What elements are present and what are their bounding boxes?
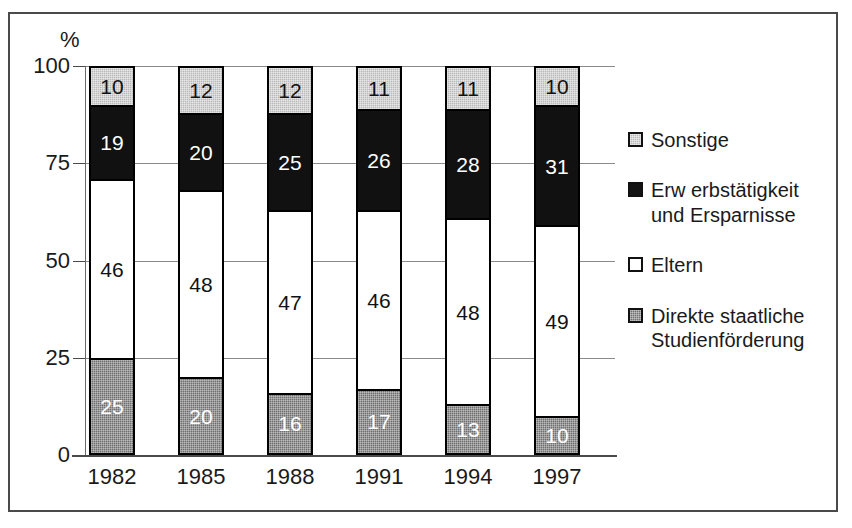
bar-segment[interactable]: 13 <box>445 404 491 455</box>
bar-segment[interactable]: 48 <box>445 218 491 405</box>
bar-segment[interactable]: 20 <box>178 113 224 191</box>
x-axis-tick-label: 1988 <box>240 466 340 488</box>
bar-segment[interactable]: 10 <box>534 416 580 455</box>
x-axis-line <box>72 455 617 457</box>
bar-segment[interactable]: 25 <box>89 358 135 455</box>
bar-segment[interactable]: 49 <box>534 225 580 416</box>
stacked-bar[interactable]: 12254716 <box>267 66 313 455</box>
bar-segment[interactable]: 11 <box>356 66 402 109</box>
bar-segment[interactable]: 25 <box>267 113 313 210</box>
bar-segment[interactable]: 10 <box>534 66 580 105</box>
legend-label: Eltern <box>651 253 703 277</box>
y-axis-tick-mark <box>73 163 85 164</box>
x-axis-tick-label: 1985 <box>151 466 251 488</box>
bar-segment[interactable]: 31 <box>534 105 580 226</box>
bar-segment[interactable]: 26 <box>356 109 402 210</box>
dark-gray-swatch <box>628 308 643 323</box>
legend-label: Direkte staatliche Studienförderung <box>651 304 804 353</box>
bar-segment[interactable]: 19 <box>89 105 135 179</box>
stacked-bar[interactable]: 10314910 <box>534 66 580 455</box>
bar-segment[interactable]: 47 <box>267 210 313 393</box>
y-axis-tick-labels: 0255075100 <box>8 0 70 528</box>
x-axis-tick-label: 1991 <box>329 466 429 488</box>
y-axis-tick-mark <box>73 66 85 67</box>
white-swatch <box>628 257 643 272</box>
bar-segment[interactable]: 17 <box>356 389 402 455</box>
x-axis-tick-label: 1994 <box>418 466 518 488</box>
bar-segment[interactable]: 20 <box>178 377 224 455</box>
bar-segment[interactable]: 16 <box>267 393 313 455</box>
stacked-bar[interactable]: 11284813 <box>445 66 491 455</box>
y-axis-tick-label: 50 <box>46 250 70 272</box>
stacked-bar[interactable]: 12204820 <box>178 66 224 455</box>
legend-label: Erw erbstätigkeit und Ersparnisse <box>651 178 799 227</box>
legend-label: Sonstige <box>651 128 729 152</box>
y-axis-tick-mark <box>73 261 85 262</box>
y-axis-tick-mark <box>73 358 85 359</box>
legend-entry[interactable]: Erw erbstätigkeit und Ersparnisse <box>628 178 828 227</box>
y-axis-tick-label: 100 <box>33 55 70 77</box>
x-axis-tick-label: 1997 <box>507 466 607 488</box>
bar-segment[interactable]: 28 <box>445 109 491 218</box>
y-axis-tick-label: 25 <box>46 347 70 369</box>
bar-segment[interactable]: 12 <box>267 66 313 113</box>
chart-figure: % 0255075100 SonstigeErw erbstätigkeit u… <box>0 0 852 528</box>
y-axis-tick-label: 0 <box>58 444 70 466</box>
stacked-bar[interactable]: 11264617 <box>356 66 402 455</box>
bar-segment[interactable]: 46 <box>356 210 402 389</box>
stacked-bar[interactable]: 10194625 <box>89 66 135 455</box>
legend-entry[interactable]: Sonstige <box>628 128 828 152</box>
legend-entry[interactable]: Direkte staatliche Studienförderung <box>628 304 828 353</box>
x-axis-tick-label: 1982 <box>62 466 162 488</box>
chart-legend: SonstigeErw erbstätigkeit und Ersparniss… <box>628 128 828 378</box>
bar-segment[interactable]: 46 <box>89 179 135 358</box>
bar-segment[interactable]: 10 <box>89 66 135 105</box>
bar-segment[interactable]: 48 <box>178 190 224 377</box>
y-axis-tick-label: 75 <box>46 152 70 174</box>
y-axis-tick-mark <box>73 455 85 456</box>
black-swatch <box>628 182 643 197</box>
light-gray-swatch <box>628 132 643 147</box>
bar-segment[interactable]: 11 <box>445 66 491 109</box>
bar-segment[interactable]: 12 <box>178 66 224 113</box>
legend-entry[interactable]: Eltern <box>628 253 828 277</box>
y-axis-line <box>85 66 86 455</box>
